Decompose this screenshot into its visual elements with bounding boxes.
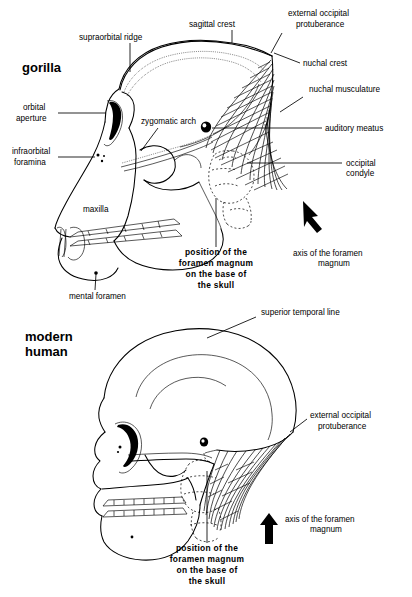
label-occipital-condyle: occipital bbox=[346, 159, 376, 168]
human-auditory-meatus-lumen bbox=[201, 439, 204, 443]
label-occipital-condyle-2: condyle bbox=[346, 169, 375, 178]
human-title-line2: human bbox=[25, 344, 68, 359]
label-axis-foramen-magnum: axis of the foramen bbox=[293, 249, 363, 258]
label-nuchal-musculature: nuchal musculature bbox=[309, 85, 380, 94]
label-infraorbital-foramina: infraorbital bbox=[12, 147, 50, 156]
gorilla-title: gorilla bbox=[22, 60, 62, 75]
caption-fm-line4: the skull bbox=[198, 280, 235, 290]
gorilla-auditory-meatus-lumen bbox=[203, 123, 207, 127]
label-sagittal-crest: sagittal crest bbox=[189, 20, 236, 29]
label-external-occipital-protuberance: external occipital bbox=[288, 9, 349, 18]
anatomy-diagram: gorilla supraorbital ridge sagittal cres… bbox=[0, 0, 412, 597]
label-nuchal-crest: nuchal crest bbox=[303, 59, 348, 68]
label-axis-foramen-magnum-2: magnum bbox=[318, 259, 350, 268]
label-supraorbital-ridge: supraorbital ridge bbox=[79, 33, 143, 42]
label-external-occipital-protuberance-human-2: protuberance bbox=[318, 422, 367, 431]
gorilla-infraorbital-foramen-1 bbox=[97, 154, 100, 157]
caption-fm-line1: position of the bbox=[185, 247, 247, 257]
label-orbital-aperture-2: aperture bbox=[16, 114, 47, 123]
human-title-line1: modern bbox=[25, 329, 73, 344]
label-external-occipital-protuberance-2: protuberance bbox=[296, 20, 345, 29]
gorilla-infraorbital-foramen-3 bbox=[103, 155, 105, 157]
human-infraorbital-foramen bbox=[119, 446, 122, 449]
label-axis-foramen-magnum-human-2: magnum bbox=[310, 525, 342, 534]
label-maxilla: maxilla bbox=[83, 205, 109, 214]
human-mental-foramen bbox=[131, 536, 134, 539]
label-orbital-aperture: orbital bbox=[23, 103, 45, 112]
label-zygomatic-arch: zygomatic arch bbox=[141, 117, 197, 126]
caption-fm-human-line1: position of the bbox=[176, 543, 238, 553]
caption-fm-line3: on the base of bbox=[186, 269, 247, 279]
human-infraorbital-foramen-2 bbox=[117, 451, 119, 453]
caption-fm-human-line3: on the base of bbox=[177, 565, 238, 575]
label-external-occipital-protuberance-human: external occipital bbox=[310, 411, 371, 420]
caption-fm-human-line4: the skull bbox=[189, 576, 226, 586]
label-superior-temporal-line: superior temporal line bbox=[261, 308, 340, 317]
caption-fm-line2: foramen magnum bbox=[179, 258, 253, 268]
gorilla-auditory-meatus bbox=[201, 121, 211, 132]
label-infraorbital-foramina-2: foramina bbox=[14, 158, 46, 167]
label-mental-foramen: mental foramen bbox=[69, 292, 126, 301]
caption-fm-human-line2: foramen magnum bbox=[170, 554, 244, 564]
figure-canvas: gorilla supraorbital ridge sagittal cres… bbox=[0, 0, 412, 597]
gorilla-infraorbital-foramen-2 bbox=[101, 160, 103, 162]
label-axis-foramen-magnum-human: axis of the foramen bbox=[285, 515, 355, 524]
label-auditory-meatus: auditory meatus bbox=[325, 124, 383, 133]
